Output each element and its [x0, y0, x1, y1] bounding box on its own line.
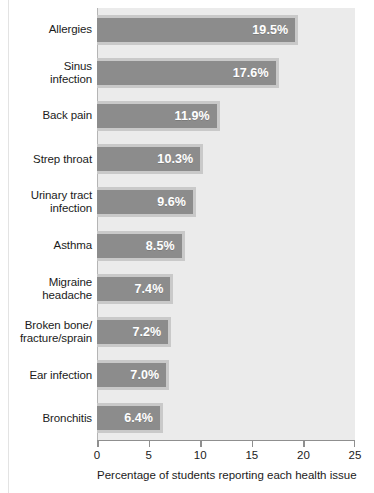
x-axis-tick [354, 441, 356, 447]
category-label-line: Broken bone/ [25, 319, 92, 331]
bar-value-label: 6.4% [124, 411, 160, 425]
bar-wrapper: 7.4% [97, 274, 173, 304]
x-axis-tick-label: 0 [94, 449, 100, 461]
bar-value-label: 9.6% [157, 195, 193, 209]
category-label-line: Strep throat [33, 153, 92, 165]
bar-wrapper: 7.0% [97, 360, 169, 390]
bar-value-label: 17.6% [233, 66, 276, 80]
category-label-line: Sinus [64, 60, 92, 72]
category-label-line: Migraine [49, 276, 92, 288]
category-label: Broken bone/fracture/sprain [0, 319, 92, 345]
bar-row: Migraineheadache7.4% [0, 267, 374, 310]
x-axis-tick [149, 441, 151, 447]
bar-value-label: 8.5% [146, 239, 182, 253]
bar-row: Urinary tractinfection9.6% [0, 181, 374, 224]
bar: 6.4% [97, 403, 163, 433]
category-label-line: Back pain [42, 109, 92, 121]
bar: 19.5% [97, 15, 298, 45]
category-label-line: Bronchitis [43, 412, 93, 424]
category-label: Asthma [0, 239, 92, 252]
x-axis-tick-label: 25 [349, 449, 362, 461]
bar-value-label: 19.5% [252, 23, 295, 37]
bar: 17.6% [97, 58, 279, 88]
bar-wrapper: 17.6% [97, 58, 279, 88]
category-label: Strep throat [0, 153, 92, 166]
bar-value-label: 10.3% [157, 152, 200, 166]
category-label-line: Urinary tract [31, 189, 92, 201]
category-label-line: Asthma [54, 239, 92, 251]
category-label-line: Ear infection [29, 369, 92, 381]
x-axis-tick-label: 20 [297, 449, 310, 461]
x-axis: 0510152025 [97, 440, 355, 441]
bar-row: Asthma8.5% [0, 224, 374, 267]
bar-row: Sinusinfection17.6% [0, 51, 374, 94]
bar-wrapper: 11.9% [97, 101, 220, 131]
bar-wrapper: 9.6% [97, 187, 196, 217]
x-axis-tick [303, 441, 305, 447]
category-label: Urinary tractinfection [0, 189, 92, 215]
bar: 9.6% [97, 187, 196, 217]
category-label-line: headache [0, 289, 92, 302]
bar: 11.9% [97, 101, 220, 131]
x-axis-tick-label: 10 [194, 449, 207, 461]
bar-value-label: 7.0% [130, 368, 166, 382]
bar-value-label: 7.2% [132, 325, 168, 339]
bar-rows: Allergies19.5%Sinusinfection17.6%Back pa… [0, 8, 374, 440]
category-label-line: Allergies [49, 23, 92, 35]
x-axis-label: Percentage of students reporting each he… [97, 469, 355, 481]
bar-value-label: 11.9% [175, 109, 217, 123]
bar-wrapper: 8.5% [97, 231, 185, 261]
bar: 7.0% [97, 360, 169, 390]
bar-row: Ear infection7.0% [0, 354, 374, 397]
bar-wrapper: 6.4% [97, 403, 163, 433]
category-label-line: infection [0, 73, 92, 86]
x-axis-tick-label: 15 [245, 449, 258, 461]
bar-wrapper: 7.2% [97, 317, 171, 347]
bar-wrapper: 10.3% [97, 144, 203, 174]
bar-row: Strep throat10.3% [0, 138, 374, 181]
category-label: Sinusinfection [0, 60, 92, 86]
bar-row: Back pain11.9% [0, 94, 374, 137]
bar-row: Broken bone/fracture/sprain7.2% [0, 310, 374, 353]
bar: 10.3% [97, 144, 203, 174]
x-axis-tick-label: 5 [145, 449, 151, 461]
category-label: Ear infection [0, 369, 92, 382]
bar-chart-figure: Allergies19.5%Sinusinfection17.6%Back pa… [0, 0, 374, 493]
bar-row: Allergies19.5% [0, 8, 374, 51]
bar: 8.5% [97, 231, 185, 261]
x-axis-tick [200, 441, 202, 447]
bar-row: Bronchitis6.4% [0, 397, 374, 440]
category-label-line: fracture/sprain [0, 332, 92, 345]
category-label: Back pain [0, 109, 92, 122]
bar-value-label: 7.4% [134, 282, 170, 296]
bar-wrapper: 19.5% [97, 15, 298, 45]
bar: 7.2% [97, 317, 171, 347]
category-label: Migraineheadache [0, 276, 92, 302]
category-label-line: infection [0, 202, 92, 215]
category-label: Allergies [0, 23, 92, 36]
category-label: Bronchitis [0, 412, 92, 425]
x-axis-tick [97, 441, 99, 447]
x-axis-tick [252, 441, 254, 447]
bar: 7.4% [97, 274, 173, 304]
